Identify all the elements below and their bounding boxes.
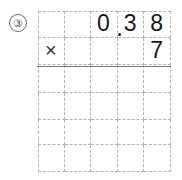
grid-cell-r0c2[interactable]: 0 — [91, 11, 118, 38]
grid-cell-r4c1[interactable] — [65, 120, 92, 145]
grid-cell-r5c0[interactable] — [38, 145, 65, 172]
grid-cell-r4c0[interactable] — [38, 120, 65, 145]
grid-cell-r5c4[interactable] — [144, 145, 171, 172]
answer-rule-line — [37, 66, 171, 67]
grid-cell-value: 8 — [144, 11, 169, 36]
grid-cell-r3c1[interactable] — [65, 93, 92, 120]
grid-cell-r3c3[interactable] — [118, 93, 145, 120]
grid-cell-r4c4[interactable] — [144, 120, 171, 145]
grid-cell-r1c4[interactable]: 7 — [144, 38, 171, 65]
grid-cell-r2c4[interactable] — [144, 65, 171, 93]
grid-cell-value: 0 — [91, 11, 116, 36]
grid-cell-r5c1[interactable] — [65, 145, 92, 172]
grid-cell-r1c2[interactable] — [91, 38, 118, 65]
grid-cell-r0c1[interactable] — [65, 11, 92, 38]
grid-cell-r0c4[interactable]: 8 — [144, 11, 171, 38]
grid-cell-r3c0[interactable] — [38, 93, 65, 120]
grid-cell-r1c0[interactable]: × — [38, 38, 65, 65]
grid-cell-r1c3[interactable] — [118, 38, 145, 65]
grid-cell-r0c3[interactable]: 3 — [118, 11, 145, 38]
decimal-point-mark — [118, 33, 121, 36]
grid-cell-value: × — [39, 37, 63, 63]
grid-cell-r3c2[interactable] — [91, 93, 118, 120]
grid-cell-r5c3[interactable] — [118, 145, 145, 172]
grid-cell-value: 3 — [118, 11, 143, 36]
calculation-grid: 0 3 8 × 7 — [38, 11, 171, 172]
grid-cell-r1c1[interactable] — [65, 38, 92, 65]
grid-cell-r2c2[interactable] — [91, 65, 118, 93]
worksheet-problem: ③ 0 3 8 × 7 — [0, 0, 182, 180]
grid-cell-r2c0[interactable] — [38, 65, 65, 93]
grid-cell-r4c3[interactable] — [118, 120, 145, 145]
grid-cell-r4c2[interactable] — [91, 120, 118, 145]
grid-cell-r0c0[interactable] — [38, 11, 65, 38]
grid-cell-r2c1[interactable] — [65, 65, 92, 93]
grid-cell-r5c2[interactable] — [91, 145, 118, 172]
grid-cell-r3c4[interactable] — [144, 93, 171, 120]
grid-cell-r2c3[interactable] — [118, 65, 145, 93]
grid-cell-value: 7 — [144, 38, 169, 63]
problem-number-badge: ③ — [9, 14, 27, 32]
